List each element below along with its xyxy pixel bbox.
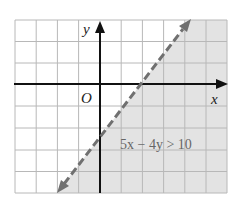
- inequality-label: 5x − 4y > 10: [120, 137, 192, 152]
- x-axis-label: x: [210, 91, 218, 107]
- inequality-graph: y x O 5x − 4y > 10: [0, 0, 240, 207]
- y-axis-arrow-icon: [95, 21, 105, 33]
- origin-label: O: [81, 90, 92, 106]
- y-axis-label: y: [81, 21, 90, 37]
